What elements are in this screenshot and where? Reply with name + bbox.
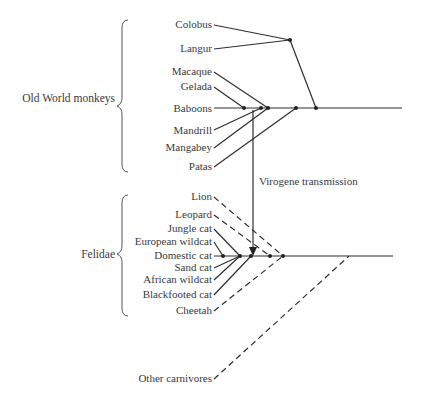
node-patas	[294, 106, 298, 110]
taxon-blackfooted-cat: Blackfooted cat	[143, 288, 212, 300]
taxon-african-wildcat: African wildcat	[143, 273, 212, 285]
node-monkey-root	[314, 106, 318, 110]
taxon-mangabey: Mangabey	[166, 141, 213, 153]
node-felid-root	[281, 254, 285, 258]
node-small-cats	[238, 254, 242, 258]
edge-patas	[214, 108, 296, 167]
taxon-colobus: Colobus	[175, 18, 212, 30]
edge-european-wildcat	[214, 242, 223, 256]
taxon-lion: Lion	[191, 190, 212, 202]
taxon-gelada: Gelada	[181, 80, 212, 92]
taxon-domestic-cat: Domestic cat	[154, 249, 212, 261]
phylogeny-diagram: Old World monkeys Felidae Colobus Langur…	[0, 0, 421, 397]
group-label-felidae: Felidae	[81, 248, 115, 260]
node-macaque	[266, 106, 270, 110]
old-world-monkeys-brace	[117, 20, 128, 172]
node-mandrill	[259, 106, 263, 110]
taxon-leopard: Leopard	[175, 208, 212, 220]
edge-lion	[214, 197, 283, 256]
edge-langur	[214, 40, 290, 49]
edge-mangabey	[214, 108, 268, 148]
taxon-mandrill: Mandrill	[174, 124, 213, 136]
edge-african-wildcat	[214, 256, 240, 280]
edge-colobine-root	[290, 40, 316, 108]
edge-macaque	[214, 72, 268, 108]
taxon-macaque: Macaque	[172, 65, 212, 77]
taxon-baboons: Baboons	[174, 102, 213, 114]
node-colobine	[288, 38, 292, 42]
node-blackfooted	[249, 254, 253, 258]
edge-gelada	[214, 87, 244, 108]
node-gelada-baboon	[242, 106, 246, 110]
edge-sand-cat	[214, 256, 240, 268]
edge-colobus	[214, 25, 290, 40]
group-label-old-world-monkeys: Old World monkeys	[22, 92, 115, 105]
node-european-wildcat	[221, 254, 225, 258]
taxon-european-wildcat: European wildcat	[135, 235, 212, 247]
edge-jungle-cat	[214, 229, 240, 256]
node-leopard	[268, 254, 272, 258]
taxon-other-carnivores: Other carnivores	[138, 372, 212, 384]
felidae-brace	[117, 195, 128, 316]
taxon-langur: Langur	[180, 42, 212, 54]
taxon-cheetah: Cheetah	[176, 304, 213, 316]
taxon-sand-cat: Sand cat	[174, 261, 212, 273]
taxon-jungle-cat: Jungle cat	[168, 222, 212, 234]
taxon-patas: Patas	[189, 160, 212, 172]
edge-leopard	[214, 215, 270, 256]
virogene-transmission-label: Virogene transmission	[259, 175, 358, 187]
